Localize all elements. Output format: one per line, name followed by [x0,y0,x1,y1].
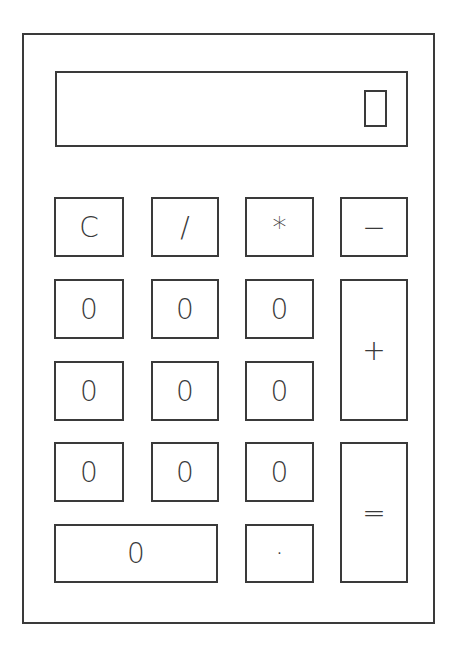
zero-wide-button[interactable]: 0 [54,524,218,583]
equals-button[interactable]: = [340,442,408,583]
digit-button[interactable]: 0 [245,279,314,339]
decimal-button[interactable]: · [245,524,314,583]
minus-button[interactable]: − [340,197,408,257]
digit-button[interactable]: 0 [245,361,314,421]
clear-button[interactable]: C [54,197,124,257]
digit-button[interactable]: 0 [151,442,219,502]
multiply-button[interactable]: * [245,197,314,257]
digit-button[interactable]: 0 [151,279,219,339]
digit-button[interactable]: 0 [54,279,124,339]
digit-button[interactable]: 0 [245,442,314,502]
calculator-display [55,71,408,147]
plus-button[interactable]: + [340,279,408,421]
digit-button[interactable]: 0 [151,361,219,421]
divide-button[interactable]: / [151,197,219,257]
digit-button[interactable]: 0 [54,361,124,421]
display-cursor-icon [364,90,387,127]
digit-button[interactable]: 0 [54,442,124,502]
